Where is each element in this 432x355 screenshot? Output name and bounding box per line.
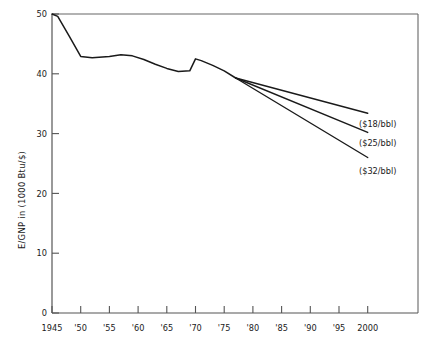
- y-tick-label-50: 50: [37, 9, 47, 19]
- x-tick-label-1945: 1945: [42, 323, 63, 333]
- x-tick-label-1985: '85: [275, 323, 288, 333]
- x-tick-label-1950: '50: [74, 323, 87, 333]
- x-tick-label-1990: '90: [304, 323, 317, 333]
- y-tick-label-10: 10: [37, 248, 47, 258]
- energy-gnp-line-chart: 50 40 30 20 10 0 E/GNP in (1000 Btu/$) 1…: [0, 0, 432, 355]
- chart-background: [0, 0, 432, 355]
- annotation-labels: ($18/bbl) ($25/bbl) ($32/bbl): [359, 119, 396, 176]
- y-tick-label-0: 0: [42, 308, 47, 318]
- y-axis-title: E/GNP in (1000 Btu/$): [17, 151, 27, 249]
- x-tick-label-1960: '60: [132, 323, 145, 333]
- x-tick-label-1955: '55: [103, 323, 116, 333]
- x-tick-label-1975: '75: [218, 323, 231, 333]
- x-tick-label-1965: '65: [160, 323, 173, 333]
- x-tick-label-2000: 2000: [357, 323, 378, 333]
- annotation-label-32-bbl: ($32/bbl): [359, 166, 396, 176]
- y-tick-label-20: 20: [37, 189, 47, 199]
- chart-container: 50 40 30 20 10 0 E/GNP in (1000 Btu/$) 1…: [0, 0, 432, 355]
- x-tick-label-1970: '70: [189, 323, 202, 333]
- x-tick-label-1995: '95: [333, 323, 346, 333]
- y-tick-label-40: 40: [37, 69, 47, 79]
- x-tick-label-1980: '80: [247, 323, 260, 333]
- annotation-label-18-bbl: ($18/bbl): [359, 119, 396, 129]
- y-tick-label-30: 30: [37, 129, 47, 139]
- annotation-label-25-bbl: ($25/bbl): [359, 138, 396, 148]
